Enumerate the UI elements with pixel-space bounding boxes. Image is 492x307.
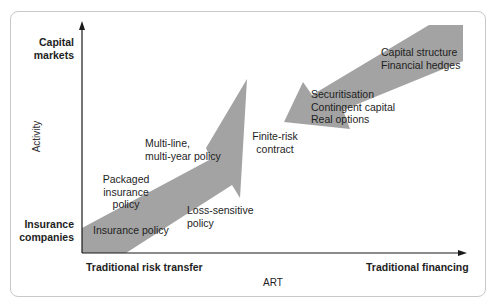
x-axis-title: ART xyxy=(263,277,283,290)
y-bottom-line-2: companies xyxy=(10,231,74,244)
y-top-line-2: markets xyxy=(18,49,74,62)
x-axis-left-label: Traditional risk transfer xyxy=(86,261,203,274)
y-bottom-line-1: Insurance xyxy=(10,218,74,231)
securitisation-line-3: Real options xyxy=(311,113,395,126)
multi-line-line-2: multi-year policy xyxy=(145,150,221,163)
packaged-line-2: insurance xyxy=(98,186,154,199)
label-securitisation: Securitisation Contingent capital Real o… xyxy=(311,88,395,126)
packaged-line-1: Packaged xyxy=(98,173,154,186)
capital-structure-line-2: Financial hedges xyxy=(381,59,460,72)
capital-structure-line-1: Capital structure xyxy=(381,46,460,59)
packaged-line-3: policy xyxy=(98,198,154,211)
label-capital-structure: Capital structure Financial hedges xyxy=(381,46,460,71)
securitisation-line-1: Securitisation xyxy=(311,88,395,101)
label-loss-sensitive-policy: Loss-sensitive policy xyxy=(187,204,254,229)
label-packaged-insurance-policy: Packaged insurance policy xyxy=(98,173,154,211)
x-axis-arrowhead-icon xyxy=(458,250,467,256)
loss-sensitive-line-2: policy xyxy=(187,217,254,230)
y-top-line-1: Capital xyxy=(18,36,74,49)
loss-sensitive-line-1: Loss-sensitive xyxy=(187,204,254,217)
y-axis-arrowhead-icon xyxy=(79,21,85,30)
finite-risk-line-1: Finite-risk xyxy=(240,130,310,143)
label-multi-line-policy: Multi-line, multi-year policy xyxy=(145,137,221,162)
label-insurance-policy: Insurance policy xyxy=(93,224,169,237)
y-axis-top-label: Capital markets xyxy=(18,36,74,61)
y-axis-title: Activity xyxy=(31,117,42,157)
x-axis-right-label: Traditional financing xyxy=(366,261,469,274)
finite-risk-line-2: contract xyxy=(240,143,310,156)
securitisation-line-2: Contingent capital xyxy=(311,101,395,114)
multi-line-line-1: Multi-line, xyxy=(145,137,221,150)
y-axis-bottom-label: Insurance companies xyxy=(10,218,74,243)
label-finite-risk-contract: Finite-risk contract xyxy=(240,130,310,155)
